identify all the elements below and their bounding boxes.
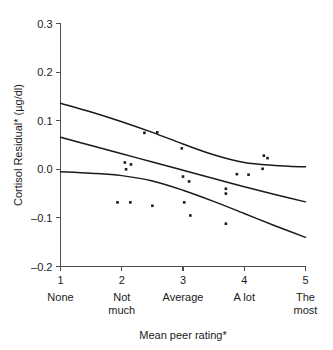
x-tick-label: 3	[180, 274, 186, 286]
data-point	[188, 180, 191, 183]
chart-figure: –0.2–0.10.00.10.20.3 12345 NoneNotmuchAv…	[0, 0, 333, 350]
x-category-label-line2: much	[108, 304, 135, 316]
y-axis-title: Cortisol Residual* (µg/dl)	[12, 84, 24, 206]
x-category-label-line1: A lot	[234, 291, 255, 303]
x-tick-label: 2	[119, 274, 125, 286]
data-point	[182, 175, 185, 178]
y-tick-label: 0.3	[37, 18, 52, 30]
data-point	[151, 204, 154, 207]
x-category-label-line1: Not	[113, 291, 130, 303]
data-point	[266, 157, 269, 160]
x-axis-category-labels: NoneNotmuchAverageA lotThemost	[47, 291, 317, 316]
lower-confidence-band	[61, 172, 306, 238]
data-point	[225, 187, 228, 190]
y-tick-label: –0.2	[31, 261, 52, 273]
data-point	[129, 201, 132, 204]
data-point	[189, 214, 192, 217]
x-category-label: A lot	[234, 291, 255, 303]
data-point	[183, 201, 186, 204]
y-tick-label: –0.1	[31, 212, 52, 224]
data-point	[263, 154, 266, 157]
data-point	[225, 192, 228, 195]
data-point	[143, 132, 146, 135]
fit-curves	[61, 103, 306, 237]
x-axis-tick-marks	[61, 267, 306, 272]
x-category-label: Average	[163, 291, 204, 303]
y-axis-tick-labels: –0.2–0.10.00.10.20.3	[31, 18, 52, 273]
data-point	[236, 173, 239, 176]
y-axis-tick-marks	[56, 24, 61, 267]
data-point	[156, 131, 159, 134]
x-category-label-line1: Average	[163, 291, 204, 303]
x-tick-label: 4	[241, 274, 247, 286]
data-point	[261, 168, 264, 171]
x-category-label-line2: most	[294, 304, 318, 316]
data-point	[180, 147, 183, 150]
x-category-label-line1: The	[296, 291, 315, 303]
x-category-label: Themost	[294, 291, 318, 316]
x-axis-tick-labels: 12345	[57, 274, 308, 286]
data-point	[130, 163, 133, 166]
y-tick-label: 0.0	[37, 163, 52, 175]
x-tick-label: 1	[57, 274, 63, 286]
data-point	[225, 222, 228, 225]
x-category-label: Notmuch	[108, 291, 135, 316]
y-tick-label: 0.2	[37, 66, 52, 78]
data-point	[116, 201, 119, 204]
x-axis-title: Mean peer rating*	[139, 329, 227, 341]
x-category-label: None	[47, 291, 73, 303]
data-point	[124, 161, 127, 164]
x-category-label-line1: None	[47, 291, 73, 303]
x-tick-label: 5	[302, 274, 308, 286]
data-point	[247, 173, 250, 176]
regression-line	[61, 137, 306, 202]
scatter-plot-canvas: –0.2–0.10.00.10.20.3 12345 NoneNotmuchAv…	[0, 0, 333, 350]
data-point	[125, 168, 128, 171]
axis-lines	[61, 24, 306, 267]
y-tick-label: 0.1	[37, 115, 52, 127]
